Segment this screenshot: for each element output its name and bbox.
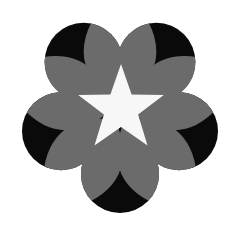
emblem-graphic [0,0,235,226]
flower-star-emblem [0,0,235,226]
